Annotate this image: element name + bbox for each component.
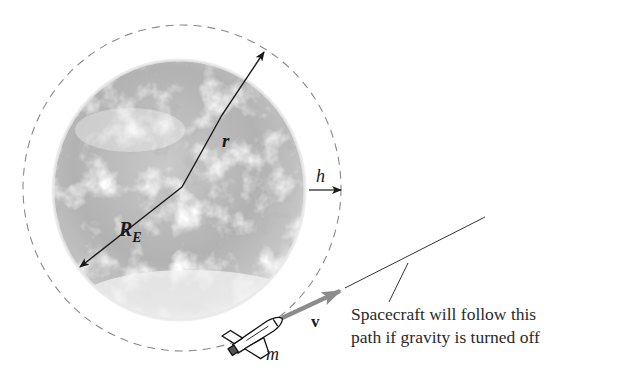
- earth-image: [50, 58, 310, 330]
- velocity-label: v: [311, 312, 320, 331]
- caption-line-1: Spacecraft will follow this: [351, 304, 536, 324]
- caption-line-2: path if gravity is turned off: [351, 327, 540, 347]
- altitude-label: h: [316, 166, 325, 186]
- caption-leader-line: [389, 263, 408, 302]
- orbit-radius-label: r: [222, 130, 230, 151]
- orbit-diagram: r RE h v m Spacecraft will follow this p…: [0, 0, 621, 385]
- mass-label: m: [266, 344, 279, 364]
- trajectory-caption: Spacecraft will follow this path if grav…: [351, 304, 541, 347]
- tangent-trajectory-line: [345, 217, 485, 288]
